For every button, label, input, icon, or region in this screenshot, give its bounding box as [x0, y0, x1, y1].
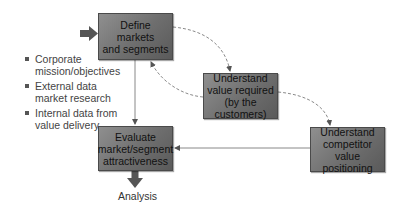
input-list: Corporate mission/objectives External da… [25, 53, 120, 134]
competitor-positioning-box: Understand competitor value positioning [310, 127, 385, 172]
output-label: Analysis [118, 190, 157, 202]
define-to-value-dashed [173, 27, 230, 71]
input-arrow-icon [80, 26, 98, 41]
value-to-define-dashed [151, 62, 203, 97]
define-markets-box: Define markets and segments [98, 13, 173, 60]
bullet-square-icon [25, 111, 29, 115]
bullet-square-icon [25, 84, 29, 88]
input-item: External data market research [25, 80, 120, 104]
output-arrow-icon [127, 171, 143, 188]
bullet-square-icon [25, 57, 29, 61]
value-to-competitor-dashed [278, 92, 330, 125]
understand-value-box: Understand value required (by the custom… [203, 73, 278, 119]
evaluate-attractiveness-box: Evaluate market/segment attractiveness [98, 126, 173, 171]
